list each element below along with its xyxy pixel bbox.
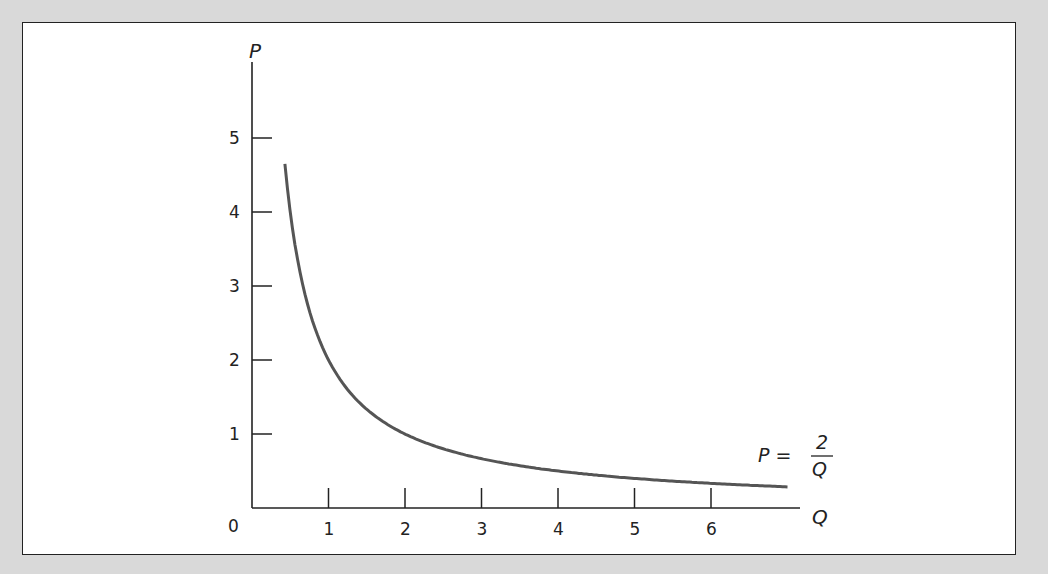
y-tick-label: 4: [229, 202, 240, 222]
x-tick-label: 5: [630, 519, 641, 539]
equation-lhs: P =: [758, 444, 791, 466]
x-ticks: 123456: [324, 488, 717, 539]
y-tick-label: 5: [229, 128, 240, 148]
y-tick-label: 2: [229, 350, 240, 370]
equation-label: P = 2 Q: [758, 431, 833, 480]
x-tick-label: 3: [477, 519, 488, 539]
equation-numerator: 2: [816, 431, 828, 453]
demand-curve-chart: 12345 123456 P Q 0 P = 2 Q: [0, 0, 1048, 574]
x-tick-label: 6: [706, 519, 717, 539]
origin-label: 0: [228, 516, 239, 536]
y-axis-title: P: [249, 39, 262, 63]
y-tick-label: 3: [229, 276, 240, 296]
x-tick-label: 1: [324, 519, 335, 539]
demand-curve: [285, 164, 788, 487]
equation-denominator: Q: [812, 458, 827, 480]
x-tick-label: 2: [400, 519, 411, 539]
x-axis-title: Q: [812, 505, 828, 529]
y-ticks: 12345: [229, 128, 272, 444]
x-tick-label: 4: [553, 519, 564, 539]
y-tick-label: 1: [229, 424, 240, 444]
